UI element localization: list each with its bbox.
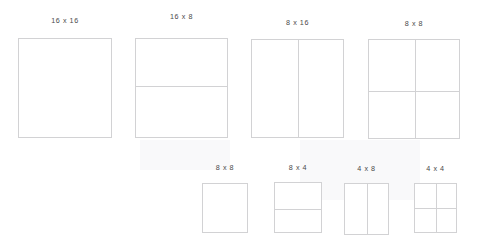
block-group: 8 x 4 [274, 0, 322, 247]
partition-block [344, 183, 389, 235]
block-size-label: 4 x 4 [414, 164, 457, 173]
partition-block [274, 182, 322, 233]
block-size-label: 16 x 16 [18, 16, 112, 25]
partition-block [18, 38, 112, 138]
block-group: 16 x 16 [18, 0, 112, 247]
block-size-label: 8 x 8 [202, 163, 248, 172]
block-group: 8 x 8 [202, 0, 248, 247]
vertical-divider [367, 184, 368, 234]
partition-block [414, 183, 457, 233]
block-group: 4 x 8 [344, 0, 389, 247]
block-group: 4 x 4 [414, 0, 457, 247]
partition-block [202, 183, 248, 233]
vertical-divider [436, 184, 437, 232]
block-size-label: 8 x 4 [274, 163, 322, 172]
block-size-label: 4 x 8 [344, 164, 389, 173]
partition-diagram-canvas: 16 x 1616 x 88 x 168 x 88 x 88 x 44 x 84… [0, 0, 482, 247]
horizontal-divider [275, 209, 321, 210]
